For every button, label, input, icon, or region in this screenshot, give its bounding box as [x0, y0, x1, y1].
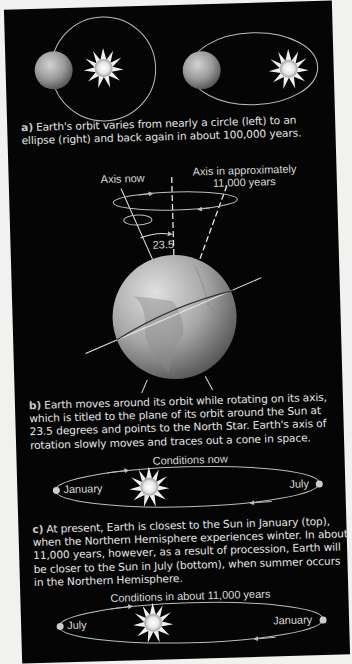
sun-icon: [129, 466, 170, 507]
now-january-label: January: [63, 482, 102, 495]
figure-panel: a)Earth's orbit varies from nearly a cir…: [4, 1, 350, 664]
earth-july-marker: [316, 480, 323, 487]
caption-b-label: b): [29, 399, 42, 411]
axis-now-label: Axis now: [101, 172, 145, 185]
elliptical-orbit-diagram: [182, 31, 319, 107]
earth-july-marker: [57, 623, 64, 630]
future-july-label: July: [67, 619, 87, 632]
future-january-label: January: [273, 613, 312, 626]
sun-icon: [133, 602, 174, 643]
caption-a-label: a): [21, 121, 33, 133]
tilt-angle-label: 23.5: [152, 238, 174, 251]
now-july-label: July: [289, 477, 309, 490]
sun-icon: [268, 48, 309, 89]
circular-orbit-diagram: [33, 16, 157, 123]
caption-c: c)At present, Earth is closest to the Su…: [32, 514, 350, 589]
earth-icon: [182, 51, 221, 90]
earth-january-marker: [53, 487, 60, 494]
axis-future-label-line2: 11,000 years: [213, 175, 276, 189]
earth-january-marker: [320, 616, 327, 623]
sun-icon: [83, 47, 124, 88]
caption-c-text: At present, Earth is closest to the Sun …: [33, 515, 348, 588]
caption-c-label: c): [32, 523, 43, 535]
earth-icon: [34, 51, 73, 90]
conditions-now-title: Conditions now: [152, 453, 228, 467]
precession-diagram: [81, 175, 265, 395]
caption-b-text: Earth moves around its orbit while rotat…: [29, 391, 327, 451]
caption-b: b)Earth moves around its orbit while rot…: [29, 391, 340, 452]
